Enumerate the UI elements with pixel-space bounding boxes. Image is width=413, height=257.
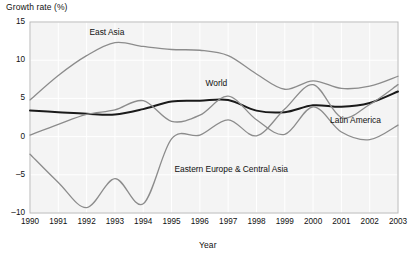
y-tick-label: –10: [0, 208, 25, 217]
x-tick-label: 1994: [128, 217, 158, 226]
series-label-world: World: [206, 78, 228, 88]
x-tick-label: 2002: [355, 217, 385, 226]
series-label-latin-america: Latin America: [330, 115, 381, 125]
series-label-eastern-europe-central-asia: Eastern Europe & Central Asia: [174, 164, 288, 174]
x-tick-label: 1990: [15, 217, 45, 226]
x-tick-label: 1997: [213, 217, 243, 226]
x-tick-label: 2001: [326, 217, 356, 226]
x-axis-title: Year: [199, 240, 217, 250]
growth-rate-line-chart: Growth rate (%) Year East AsiaWorldLatin…: [0, 0, 413, 257]
y-tick-label: 0: [0, 132, 25, 141]
x-tick-label: 1996: [185, 217, 215, 226]
y-tick-label: 15: [0, 17, 25, 26]
x-tick-label: 1993: [100, 217, 130, 226]
x-tick-label: 1995: [157, 217, 187, 226]
y-tick-label: 10: [0, 55, 25, 64]
x-tick-label: 1992: [72, 217, 102, 226]
x-tick-label: 1998: [242, 217, 272, 226]
x-tick-label: 1991: [43, 217, 73, 226]
x-tick-label: 2003: [383, 217, 413, 226]
series-label-east-asia: East Asia: [89, 27, 124, 37]
x-tick-label: 2000: [298, 217, 328, 226]
x-tick-label: 1999: [270, 217, 300, 226]
y-tick-label: 5: [0, 93, 25, 102]
y-tick-label: –5: [0, 170, 25, 179]
